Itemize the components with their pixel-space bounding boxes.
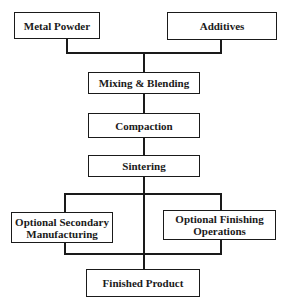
connector-merge-to-mixing xyxy=(143,52,145,72)
node-finished-product: Finished Product xyxy=(86,269,200,297)
node-label-line1: Optional Finishing xyxy=(175,213,263,225)
node-label-line2: Operations xyxy=(193,225,246,237)
connector-sintering-trunk xyxy=(143,176,145,269)
node-optional-finishing-operations: Optional Finishing Operations xyxy=(163,210,276,240)
node-optional-secondary-manufacturing: Optional Secondary Manufacturing xyxy=(11,212,113,243)
connector-branch-bottom xyxy=(64,253,222,255)
node-label: Finished Product xyxy=(103,277,184,289)
connector-compaction-to-sintering xyxy=(143,137,145,155)
node-label-line1: Optional Secondary xyxy=(15,216,109,228)
connector-branch-top xyxy=(64,193,222,195)
node-sintering: Sintering xyxy=(88,155,200,177)
node-label: Metal Powder xyxy=(24,20,90,32)
node-additives: Additives xyxy=(167,12,277,40)
connector-mixing-to-compaction xyxy=(143,93,145,113)
node-compaction: Compaction xyxy=(88,113,200,138)
node-label: Mixing & Blending xyxy=(99,77,189,89)
node-label: Compaction xyxy=(115,120,172,132)
node-label-line2: Manufacturing xyxy=(26,228,98,240)
node-label: Additives xyxy=(200,20,245,32)
node-label: Sintering xyxy=(122,160,165,172)
node-metal-powder: Metal Powder xyxy=(14,12,100,39)
node-mixing-blending: Mixing & Blending xyxy=(88,72,200,94)
